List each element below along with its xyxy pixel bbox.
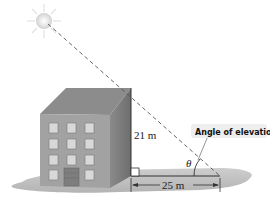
callout-leader (198, 136, 208, 160)
callout-label: Angle of elevation (195, 128, 270, 137)
distance-label: 25 m (162, 179, 185, 191)
angle-symbol: θ (186, 157, 192, 169)
building (40, 88, 131, 188)
sun-icon (27, 4, 61, 38)
right-angle-marker (131, 168, 139, 176)
diagram-canvas: 21 m 25 m θ Angle of elevation (0, 0, 270, 210)
height-label: 21 m (134, 129, 157, 141)
